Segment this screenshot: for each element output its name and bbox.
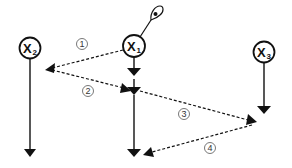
step-number-3: 3	[181, 109, 186, 119]
step-number-4: 4	[207, 143, 212, 153]
arrow-left-icon	[143, 147, 154, 157]
node-x1-label: X	[127, 39, 136, 54]
step-number-1: 1	[79, 39, 84, 49]
arrow-down-icon	[127, 68, 141, 76]
timeline-x3	[257, 63, 271, 114]
arrow-down-icon	[257, 106, 271, 114]
node-x2-label: X	[23, 41, 32, 56]
step-label-1: 1	[77, 39, 88, 50]
step-number-2: 2	[85, 86, 90, 96]
node-x3-subscript: 3	[267, 52, 272, 61]
node-x2: X 2	[20, 38, 41, 59]
node-x1-subscript: 1	[137, 46, 142, 55]
message-sequence-diagram: X 2 X 1 X 3 1 2 3 4	[0, 0, 292, 168]
timeline-x1	[127, 57, 141, 157]
message-2	[52, 70, 131, 93]
step-label-3: 3	[179, 109, 190, 120]
step-label-2: 2	[83, 86, 94, 97]
node-x3-label: X	[257, 45, 266, 60]
step-label-4: 4	[205, 143, 216, 154]
observer-eye	[140, 6, 163, 37]
arrow-down-icon	[24, 149, 36, 157]
node-x1: X 1	[123, 35, 145, 57]
node-x3: X 3	[254, 42, 275, 63]
message-3	[140, 91, 257, 125]
message-1	[45, 50, 123, 73]
arrow-right-icon	[246, 114, 257, 125]
arrow-down-icon	[127, 149, 141, 157]
node-x2-subscript: 2	[33, 48, 38, 57]
timeline-x2	[24, 59, 36, 157]
message-4	[143, 125, 252, 157]
arrow-left-icon	[45, 63, 55, 73]
